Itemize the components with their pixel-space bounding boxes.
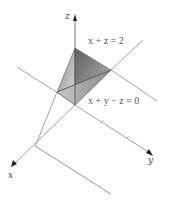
y-axis-label: y [147, 155, 154, 165]
plane-label-x-plus-y-minus-z-eq-0: x + y − z = 0 [88, 95, 139, 106]
x-tick-1 [54, 124, 57, 127]
trace-line-down-left [35, 92, 57, 147]
x-axis [14, 105, 75, 164]
x-axis-arrow-icon [11, 160, 17, 167]
z-axis-arrow-icon [73, 14, 77, 21]
trace-line-bottom [35, 146, 111, 194]
z-axis-label: z [64, 11, 70, 21]
diagram-canvas: z y x x + z = 2 x + y − z = 0 [0, 0, 169, 200]
y-axis [75, 105, 150, 153]
plane-label-x-plus-z-eq-2: x + z = 2 [88, 35, 124, 46]
x-axis-label: x [8, 170, 13, 180]
